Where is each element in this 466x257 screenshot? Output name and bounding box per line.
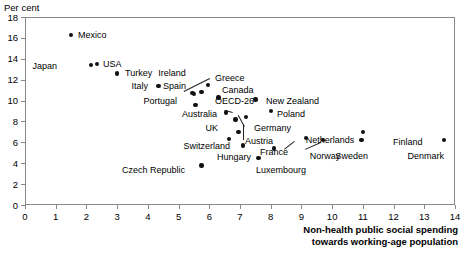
point-label-japan: Japan [0, 62, 57, 71]
x-tick-label-5: 5 [165, 211, 193, 222]
x-tick-label-8: 8 [257, 211, 285, 222]
data-point [241, 143, 245, 147]
data-point [236, 130, 240, 134]
x-tick-mark [86, 205, 87, 209]
point-label-austria: Austria [245, 137, 273, 146]
x-tick-label-10: 10 [318, 211, 346, 222]
y-tick-mark [21, 59, 25, 60]
leader-line [243, 124, 244, 140]
y-tick-mark [21, 17, 25, 18]
point-label-portugal: Portugal [0, 97, 177, 106]
x-axis-title-line2: towards working-age population [303, 236, 458, 248]
x-tick-mark [301, 205, 302, 209]
x-tick-label-7: 7 [226, 211, 254, 222]
x-tick-label-3: 3 [103, 211, 131, 222]
y-tick-mark [21, 121, 25, 122]
x-tick-mark [363, 205, 364, 209]
y-tick-label-18: 18 [0, 12, 18, 23]
point-label-finland: Finland [393, 138, 423, 147]
data-point [206, 83, 210, 87]
x-tick-mark [56, 205, 57, 209]
point-label-germany: Germany [254, 124, 291, 133]
x-tick-mark [148, 205, 149, 209]
x-tick-mark [424, 205, 425, 209]
point-label-new-zealand: New Zealand [266, 97, 319, 106]
point-label-luxembourg: Luxembourg [236, 166, 326, 175]
x-tick-label-14: 14 [441, 211, 466, 222]
x-tick-label-9: 9 [287, 211, 315, 222]
y-tick-label-0: 0 [0, 200, 18, 211]
y-tick-mark [21, 184, 25, 185]
point-label-czech-republic: Czech Republic [0, 166, 185, 175]
data-point [256, 156, 260, 160]
x-tick-mark [117, 205, 118, 209]
point-label-poland: Poland [277, 110, 305, 119]
x-axis-title-line1: Non-health public social spending [303, 224, 458, 236]
point-label-australia: Australia [0, 110, 217, 119]
data-point [253, 97, 257, 101]
x-tick-mark [209, 205, 210, 209]
x-tick-label-12: 12 [380, 211, 408, 222]
x-tick-mark [240, 205, 241, 209]
x-tick-mark [179, 205, 180, 209]
x-axis-title: Non-health public social spending toward… [303, 224, 458, 248]
x-tick-mark [332, 205, 333, 209]
x-tick-label-13: 13 [410, 211, 438, 222]
y-tick-mark [21, 80, 25, 81]
x-tick-label-11: 11 [349, 211, 377, 222]
x-tick-label-4: 4 [134, 211, 162, 222]
point-label-oecd-26: OECD-26 [215, 97, 254, 106]
y-tick-label-16: 16 [0, 32, 18, 43]
x-tick-label-2: 2 [72, 211, 100, 222]
point-label-uk: UK [0, 124, 218, 133]
point-label-usa: USA [103, 60, 122, 69]
x-tick-label-1: 1 [42, 211, 70, 222]
y-tick-mark [21, 163, 25, 164]
x-tick-mark [271, 205, 272, 209]
x-tick-label-0: 0 [11, 211, 39, 222]
y-tick-mark [21, 38, 25, 39]
point-label-mexico: Mexico [78, 31, 107, 40]
x-tick-mark [394, 205, 395, 209]
data-point [361, 130, 365, 134]
x-tick-mark [25, 205, 26, 209]
data-point [233, 117, 237, 121]
point-label-greece: Greece [215, 74, 245, 83]
point-label-spain: Spain [0, 82, 186, 91]
data-point [199, 163, 203, 167]
x-tick-label-6: 6 [195, 211, 223, 222]
data-point [115, 71, 119, 75]
point-label-canada: Canada [222, 86, 254, 95]
point-label-denmark: Denmark [0, 152, 444, 161]
y-tick-label-2: 2 [0, 179, 18, 190]
data-point [269, 109, 273, 113]
x-tick-mark [455, 205, 456, 209]
data-point [359, 138, 363, 142]
point-label-ireland: Ireland [127, 69, 217, 78]
scatter-chart: Per cent 01234567891011121314 0246810121… [0, 0, 466, 257]
point-label-switzerland: Switzerland [0, 142, 230, 151]
y-tick-mark [21, 205, 25, 206]
